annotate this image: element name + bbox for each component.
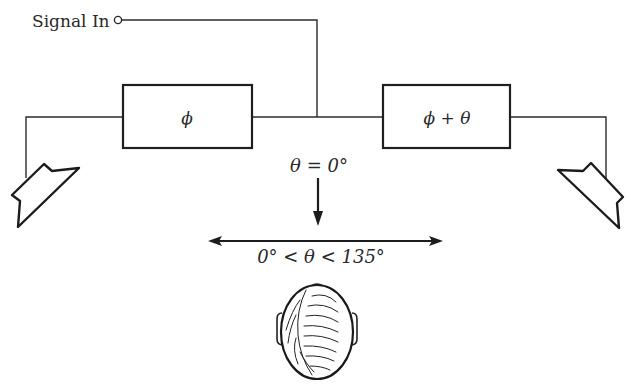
input-terminal-icon	[114, 16, 121, 23]
phase-block-right: ϕ + θ	[383, 85, 510, 148]
right-speaker-icon	[558, 163, 623, 228]
phase-block-left: ϕ	[123, 85, 252, 148]
listener-head-icon	[277, 284, 357, 379]
range-angle-label: 0° < θ < 135°	[257, 246, 385, 267]
phase-block-left-label: ϕ	[181, 108, 193, 128]
down-arrow-icon	[313, 178, 323, 226]
center-angle-label: θ = 0°	[290, 155, 348, 176]
double-arrow-icon	[208, 236, 443, 246]
phase-block-right-label: ϕ + θ	[424, 108, 471, 128]
signal-in-label: Signal In	[32, 11, 110, 31]
left-speaker-icon	[12, 164, 79, 227]
stereo-phase-diagram: Signal In ϕ ϕ + θ θ = 0° 0° < θ < 135°	[0, 0, 635, 389]
